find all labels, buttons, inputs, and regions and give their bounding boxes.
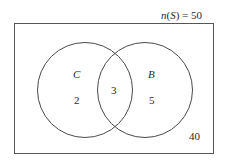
universe-label-value: = 50 [179, 9, 202, 21]
intersection-count: 3 [111, 85, 117, 96]
outside-count: 40 [189, 131, 200, 142]
set-c-circle [38, 43, 133, 138]
set-c-label: C [73, 69, 80, 80]
set-b-only-count: 5 [149, 95, 155, 106]
universe-label: n(S) = 50 [161, 10, 202, 21]
set-b-label: B [148, 69, 155, 80]
set-c-only-count: 2 [74, 95, 80, 106]
